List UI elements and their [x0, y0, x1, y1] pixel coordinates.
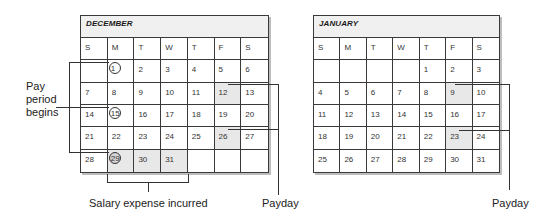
day-number: 30 [450, 155, 459, 164]
day-number: 9 [138, 88, 142, 97]
day-of-week-header: T [367, 38, 393, 60]
day-number: 20 [371, 132, 380, 141]
day-number: 8 [112, 88, 116, 97]
day-of-week-label: F [450, 43, 455, 52]
day-number: 24 [165, 132, 174, 141]
day-cell: 29 [420, 150, 446, 172]
day-number: 18 [192, 110, 201, 119]
pay-period-arm-29 [69, 152, 109, 153]
day-number: 23 [138, 132, 147, 141]
day-cell: 3 [161, 60, 188, 82]
day-of-week-header: M [108, 38, 135, 60]
day-of-week-label: S [85, 43, 90, 52]
day-number: 24 [477, 132, 486, 141]
day-of-week-header: S [473, 38, 499, 60]
day-of-week-label: M [112, 43, 119, 52]
day-cell [340, 60, 366, 82]
day-number: 6 [245, 65, 249, 74]
day-cell: 22 [420, 127, 446, 149]
day-of-week-header: T [134, 38, 161, 60]
day-cell [241, 150, 268, 172]
dec-payday-label: Payday [262, 197, 299, 210]
day-cell: 3 [473, 60, 499, 82]
day-number: 10 [477, 88, 486, 97]
day-cell: 26 [215, 127, 242, 149]
dec-payday-arm-12 [228, 84, 279, 85]
day-cell: 23 [134, 127, 161, 149]
day-number: 14 [397, 110, 406, 119]
pay-period-arm-15 [56, 107, 109, 108]
day-number: 26 [219, 132, 228, 141]
day-cell: 27 [241, 127, 268, 149]
day-of-week-header: T [420, 38, 446, 60]
dec-payday-vertical [278, 84, 279, 195]
pay-period-arm-1 [69, 62, 109, 63]
day-number: 27 [245, 132, 254, 141]
day-cell [215, 150, 242, 172]
day-cell: 31 [473, 150, 499, 172]
day-number: 30 [138, 155, 147, 164]
day-of-week-label: F [219, 43, 224, 52]
day-number: 6 [371, 88, 375, 97]
day-cell: 14 [81, 105, 108, 127]
day-number: 22 [112, 132, 121, 141]
day-cell: 21 [393, 127, 419, 149]
day-number: 28 [85, 155, 94, 164]
day-cell: 1 [108, 60, 135, 82]
day-cell: 2 [134, 60, 161, 82]
day-number: 7 [397, 88, 401, 97]
jan-payday-arm-23 [459, 130, 510, 131]
day-cell: 5 [340, 83, 366, 105]
day-cell: 29 [108, 150, 135, 172]
day-of-week-header: F [215, 38, 242, 60]
day-number: 21 [85, 132, 94, 141]
day-of-week-header: F [446, 38, 472, 60]
day-cell: 26 [340, 150, 366, 172]
day-cell: 16 [446, 105, 472, 127]
day-cell [393, 60, 419, 82]
january-title: JANUARY [319, 19, 358, 28]
day-number: 25 [318, 155, 327, 164]
december-header: DECEMBER [81, 16, 268, 38]
day-cell: 16 [134, 105, 161, 127]
day-of-week-label: S [477, 43, 482, 52]
day-number: 14 [85, 110, 94, 119]
day-cell [188, 150, 215, 172]
day-number: 29 [111, 154, 120, 163]
day-number: 16 [138, 110, 147, 119]
day-number: 3 [165, 65, 169, 74]
day-of-week-header: S [314, 38, 340, 60]
day-cell: 25 [314, 150, 340, 172]
day-cell: 19 [215, 105, 242, 127]
day-number: 17 [165, 110, 174, 119]
day-cell: 10 [161, 83, 188, 105]
january-header: JANUARY [314, 16, 499, 38]
day-number: 21 [397, 132, 406, 141]
day-cell: 10 [473, 83, 499, 105]
day-cell: 7 [393, 83, 419, 105]
day-cell: 17 [473, 105, 499, 127]
day-cell: 2 [446, 60, 472, 82]
dec-payday-arm-26 [228, 129, 279, 130]
day-cell: 13 [367, 105, 393, 127]
day-cell: 30 [446, 150, 472, 172]
day-cell: 13 [241, 83, 268, 105]
pay-period-line2: period [26, 93, 58, 106]
day-number: 17 [477, 110, 486, 119]
day-number: 5 [219, 65, 223, 74]
day-number: 13 [245, 88, 254, 97]
day-number: 1 [424, 65, 428, 74]
day-number: 2 [138, 65, 142, 74]
day-cell [367, 60, 393, 82]
day-number: 25 [192, 132, 201, 141]
day-cell: 7 [81, 83, 108, 105]
day-cell: 9 [446, 83, 472, 105]
day-cell: 15 [108, 105, 135, 127]
salary-bracket-left [107, 174, 108, 182]
day-number: 26 [344, 155, 353, 164]
day-cell: 9 [134, 83, 161, 105]
day-cell: 31 [161, 150, 188, 172]
day-of-week-header: S [81, 38, 108, 60]
pay-period-line3: begins [26, 106, 58, 119]
day-cell: 18 [188, 105, 215, 127]
